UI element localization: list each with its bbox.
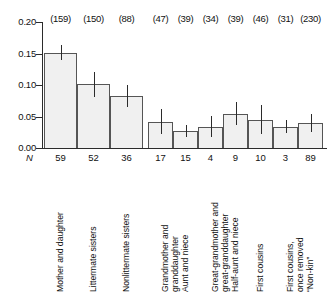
y-axis-tick-label: 0.20 — [2, 17, 36, 27]
sample-count-label: (230) — [291, 14, 331, 24]
y-axis-tick-label: 0.10 — [2, 80, 36, 90]
y-axis-tick — [36, 117, 42, 118]
y-axis-tick-label: 0.15 — [2, 49, 36, 59]
error-bar — [311, 114, 312, 132]
category-label: Littermate sisters — [89, 227, 99, 292]
error-bar — [61, 45, 62, 60]
y-axis-line — [42, 22, 43, 148]
bar — [44, 53, 77, 148]
x-axis-baseline — [42, 148, 327, 149]
category-label: Half-aunt and niece — [231, 217, 241, 292]
y-axis-tick — [36, 85, 42, 86]
category-label: Mother and daughter — [56, 212, 66, 292]
category-label: Grandmother and granddaughter — [161, 225, 180, 292]
y-axis-tick — [36, 54, 42, 55]
category-label: “Non-kin” — [306, 257, 316, 292]
error-bar — [286, 120, 287, 133]
error-bar — [161, 109, 162, 134]
error-bar — [186, 125, 187, 137]
error-bar — [261, 105, 262, 134]
y-axis-tick-label: 0.05 — [2, 112, 36, 122]
category-label: First cousins — [256, 244, 266, 292]
y-axis-tick — [36, 148, 42, 149]
n-value: 89 — [291, 153, 331, 163]
bar-chart: 0.200.150.100.050.00 (159)(150)(88)(47)(… — [0, 0, 331, 296]
y-axis-labels: 0.200.150.100.050.00 — [0, 0, 36, 296]
error-bar — [211, 116, 212, 137]
n-row-title: N — [26, 153, 33, 163]
category-label: Nonlittermate sisters — [122, 214, 132, 292]
error-bar — [94, 72, 95, 97]
category-label: Great-grandmother and great-granddaughte… — [211, 202, 230, 292]
category-label: First cousins, once removed — [286, 238, 305, 292]
category-label: Aunt and niece — [181, 235, 191, 292]
error-bar — [236, 102, 237, 125]
error-bar — [127, 85, 128, 107]
